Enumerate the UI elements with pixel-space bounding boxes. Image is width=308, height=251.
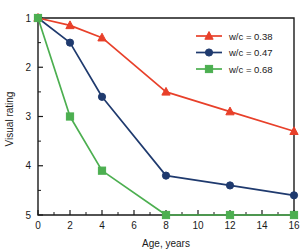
visual-rating-line-chart: 0246810121416 12345 Age, years Visual ra… [0,0,308,251]
legend-marker [205,49,212,56]
x-tick-label: 4 [99,220,105,231]
data-point [98,167,105,174]
data-point [66,39,73,46]
x-tick-label: 16 [288,220,300,231]
data-point [34,14,41,21]
data-point [290,211,297,218]
legend-label: w/c = 0.68 [228,64,273,75]
legend-label: w/c = 0.47 [228,47,273,58]
data-point [226,182,233,189]
x-axis-title: Age, years [142,238,190,249]
y-axis-title: Visual rating [4,92,15,147]
y-tick-label: 4 [25,160,31,171]
data-point [66,113,73,120]
legend-entry-0: w/c = 0.38 [196,31,273,42]
series-2 [34,14,297,218]
x-tick-label: 6 [131,220,137,231]
data-point [98,93,105,100]
x-axis-tick-labels: 0246810121416 [35,220,300,231]
x-tick-label: 2 [67,220,73,231]
data-point [162,211,169,218]
y-tick-label: 5 [25,210,31,221]
chart-figure: 0246810121416 12345 Age, years Visual ra… [0,0,308,251]
data-point [226,211,233,218]
y-axis-major-ticks [38,18,43,215]
y-axis-tick-labels: 12345 [25,13,31,221]
data-series-layer [34,14,298,219]
legend-marker [205,65,212,72]
legend-entry-1: w/c = 0.47 [196,47,273,58]
legend-entry-2: w/c = 0.68 [196,64,273,75]
data-point [290,192,297,199]
x-tick-label: 12 [224,220,236,231]
chart-legend: w/c = 0.38w/c = 0.47w/c = 0.68 [196,31,273,75]
series-1 [34,14,297,199]
y-tick-label: 2 [25,62,31,73]
x-tick-label: 0 [35,220,41,231]
x-tick-label: 8 [163,220,169,231]
x-tick-label: 10 [192,220,204,231]
data-point [162,172,169,179]
legend-label: w/c = 0.38 [228,31,273,42]
x-tick-label: 14 [256,220,268,231]
y-tick-label: 3 [25,111,31,122]
y-tick-label: 1 [25,13,31,24]
series-line-1 [38,18,294,195]
